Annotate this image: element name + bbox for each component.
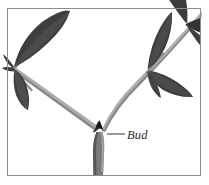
bud-label: Bud bbox=[127, 128, 148, 142]
botanical-figure: Bud bbox=[0, 0, 209, 185]
plant-illustration bbox=[0, 0, 209, 185]
